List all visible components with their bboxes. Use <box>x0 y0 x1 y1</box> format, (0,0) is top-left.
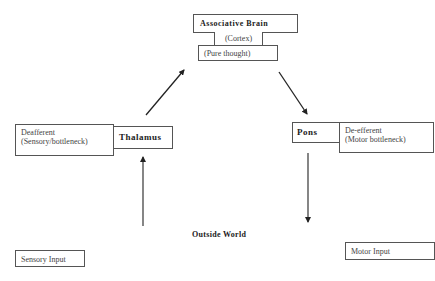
motor-input-label: Motor Input <box>351 247 390 256</box>
associative-brain-box: Associative Brain <box>193 14 298 33</box>
deefferent-box: De-efferent (Motor bottleneck) <box>339 122 434 153</box>
outside-world-label: Outside World <box>192 230 246 239</box>
motor-input-box: Motor Input <box>345 242 435 260</box>
pure-thought-box: (Pure thought) <box>198 45 278 61</box>
sensory-input-label: Sensory Input <box>21 255 66 264</box>
arrow-brain-to-pons <box>279 72 307 114</box>
deefferent-subtitle: (Motor bottleneck) <box>345 135 429 144</box>
pons-box: Pons <box>292 122 340 143</box>
associative-brain-label: Associative Brain <box>200 19 268 28</box>
thalamus-label: Thalamus <box>119 132 162 142</box>
arrow-thalamus-to-brain <box>146 70 184 115</box>
deefferent-title: De-efferent <box>345 126 429 135</box>
cortex-box: (Cortex) <box>214 32 263 46</box>
pons-label: Pons <box>297 127 318 137</box>
pure-thought-label: (Pure thought) <box>204 49 250 58</box>
deafferent-box: Deafferent (Sensory/bottleneck) <box>15 124 114 156</box>
deafferent-title: Deafferent <box>21 128 109 137</box>
deafferent-subtitle: (Sensory/bottleneck) <box>21 137 109 146</box>
sensory-input-box: Sensory Input <box>15 250 85 267</box>
cortex-label: (Cortex) <box>225 34 252 43</box>
thalamus-box: Thalamus <box>113 126 173 149</box>
